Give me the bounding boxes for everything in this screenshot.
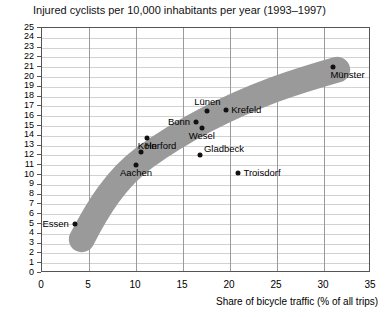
data-point-label: Lünen [194, 97, 220, 107]
plot-area: EssenAachenHerfordKölnGladbeckWeselBonnL… [41, 27, 370, 272]
y-tick-label: 23 [12, 42, 34, 51]
y-tick-label: 5 [12, 219, 34, 228]
y-tick-label: 9 [12, 179, 34, 188]
x-tick-label: 5 [73, 280, 103, 290]
data-point-label: Münster [330, 70, 364, 80]
data-point [72, 222, 77, 227]
y-tick-mark [37, 174, 41, 175]
y-tick-mark [37, 76, 41, 77]
y-tick-label: 15 [12, 121, 34, 130]
y-tick-label: 18 [12, 91, 34, 100]
x-tick-label: 25 [261, 280, 291, 290]
x-tick-label: 30 [308, 280, 338, 290]
y-tick-label: 13 [12, 140, 34, 149]
y-tick-label: 11 [12, 160, 34, 169]
data-point-label: Köln [138, 141, 157, 151]
y-tick-mark [37, 86, 41, 87]
x-tick-label: 35 [355, 280, 385, 290]
y-tick-mark [37, 272, 41, 273]
y-tick-mark [37, 66, 41, 67]
x-tick-label: 20 [214, 280, 244, 290]
y-tick-label: 2 [12, 248, 34, 257]
y-tick-mark [37, 56, 41, 57]
data-point [236, 171, 241, 176]
y-tick-mark [37, 145, 41, 146]
y-tick-label: 10 [12, 170, 34, 179]
y-tick-mark [37, 203, 41, 204]
data-point-label: Wesel [189, 131, 215, 141]
y-tick-mark [37, 213, 41, 214]
chart-title: Injured cyclists per 10,000 inhabitants … [33, 4, 326, 16]
y-tick-mark [37, 47, 41, 48]
x-axis-label: Share of bicycle traffic (% of all trips… [216, 296, 378, 307]
y-tick-label: 1 [12, 258, 34, 267]
y-tick-label: 20 [12, 72, 34, 81]
data-point-label: Troisdorf [243, 168, 280, 178]
y-tick-mark [37, 243, 41, 244]
y-tick-label: 19 [12, 81, 34, 90]
y-tick-mark [37, 233, 41, 234]
y-tick-label: 0 [12, 268, 34, 277]
y-tick-label: 12 [12, 150, 34, 159]
chart-container: Injured cyclists per 10,000 inhabitants … [0, 0, 389, 317]
y-tick-mark [37, 27, 41, 28]
data-point-label: Essen [42, 219, 68, 229]
y-tick-label: 21 [12, 62, 34, 71]
y-tick-mark [37, 154, 41, 155]
y-tick-label: 17 [12, 101, 34, 110]
y-tick-mark [37, 125, 41, 126]
data-point [224, 108, 229, 113]
y-tick-label: 7 [12, 199, 34, 208]
data-point-label: Bonn [168, 117, 190, 127]
y-tick-label: 6 [12, 209, 34, 218]
y-tick-mark [37, 194, 41, 195]
x-tick-label: 0 [26, 280, 56, 290]
data-point-label: Aachen [120, 168, 152, 178]
y-tick-mark [37, 135, 41, 136]
y-tick-mark [37, 96, 41, 97]
y-tick-label: 25 [12, 23, 34, 32]
x-tick-label: 10 [120, 280, 150, 290]
x-tick-label: 15 [167, 280, 197, 290]
y-tick-mark [37, 105, 41, 106]
y-tick-label: 22 [12, 52, 34, 61]
y-tick-label: 8 [12, 189, 34, 198]
data-point-label: Gladbeck [204, 144, 244, 154]
y-tick-mark [37, 37, 41, 38]
y-tick-label: 16 [12, 111, 34, 120]
y-tick-label: 24 [12, 32, 34, 41]
data-point-label: Krefeld [231, 105, 261, 115]
y-tick-mark [37, 252, 41, 253]
y-tick-mark [37, 115, 41, 116]
y-tick-mark [37, 184, 41, 185]
data-point [194, 120, 199, 125]
y-tick-mark [37, 164, 41, 165]
y-tick-label: 3 [12, 238, 34, 247]
y-tick-label: 4 [12, 228, 34, 237]
data-point [197, 153, 202, 158]
y-tick-mark [37, 223, 41, 224]
y-tick-mark [37, 262, 41, 263]
y-tick-label: 14 [12, 130, 34, 139]
data-point [205, 109, 210, 114]
